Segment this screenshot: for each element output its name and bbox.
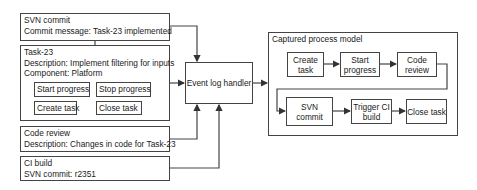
- svn-commit-title: SVN commit: [24, 15, 166, 26]
- event-log-handler-label: Event log handler: [187, 78, 252, 88]
- ci-build-svn-commit: SVN commit: r2351: [24, 169, 166, 180]
- model-step-svn-commit: SVNcommit: [286, 97, 333, 126]
- stop-progress-button[interactable]: Stop progress: [96, 82, 151, 97]
- task-event: Task-23 Description: Implement filtering…: [20, 45, 170, 121]
- task-component: Component: Platform: [24, 68, 166, 79]
- model-step-trigger-ci-build: Trigger CIbuild: [351, 99, 392, 124]
- ci-build-title: CI build: [24, 158, 166, 169]
- task-title: Task-23: [24, 47, 166, 58]
- task-description: Description: Implement filtering for inp…: [24, 58, 166, 69]
- event-log-handler: Event log handler: [185, 62, 253, 104]
- close-task-button[interactable]: Close task: [96, 101, 142, 115]
- create-task-button[interactable]: Create task: [34, 101, 77, 115]
- svn-commit-event: SVN commit Commit message: Task-23 imple…: [20, 13, 170, 41]
- start-progress-button[interactable]: Start progress: [34, 82, 90, 97]
- model-step-close-task: Close task: [406, 99, 447, 124]
- captured-process-model-title: Captured process model: [272, 34, 362, 44]
- svn-commit-message: Commit message: Task-23 implemented: [24, 26, 166, 37]
- ci-build-event: CI build SVN commit: r2351: [20, 156, 170, 181]
- model-step-create-task: Createtask: [287, 52, 324, 77]
- code-review-title: Code review: [24, 128, 166, 139]
- model-step-code-review: Codereview: [397, 52, 437, 77]
- code-review-event: Code review Description: Changes in code…: [20, 126, 170, 152]
- model-step-start-progress: Startprogress: [340, 52, 380, 77]
- code-review-description: Description: Changes in code for Task-23: [24, 139, 166, 150]
